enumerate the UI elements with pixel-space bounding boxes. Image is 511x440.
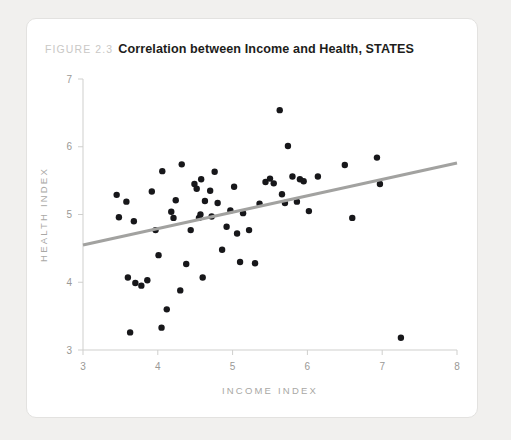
data-point: [214, 200, 220, 206]
x-tick-label: 8: [454, 361, 460, 372]
y-axis-ticks: 34567: [66, 74, 83, 356]
x-tick-label: 3: [80, 361, 86, 372]
data-point: [342, 162, 348, 168]
data-point: [125, 274, 131, 280]
data-point: [207, 188, 213, 194]
x-tick-label: 5: [230, 361, 236, 372]
y-tick-label: 5: [66, 209, 72, 220]
data-point: [223, 223, 229, 229]
data-point: [149, 188, 155, 194]
x-axis-title: INCOME INDEX: [222, 385, 318, 396]
data-point: [170, 215, 176, 221]
data-point: [300, 178, 306, 184]
y-axis-title: HEALTH INDEX: [38, 167, 49, 262]
data-point: [179, 161, 185, 167]
x-tick-label: 6: [305, 361, 311, 372]
data-point: [183, 261, 189, 267]
data-point: [277, 107, 283, 113]
data-point: [168, 209, 174, 215]
data-point: [132, 280, 138, 286]
data-point: [279, 191, 285, 197]
data-point: [252, 260, 258, 266]
data-point: [271, 180, 277, 186]
data-point: [123, 198, 129, 204]
data-point: [289, 173, 295, 179]
data-point: [285, 143, 291, 149]
data-point: [116, 214, 122, 220]
data-point: [113, 192, 119, 198]
data-point: [188, 227, 194, 233]
x-tick-label: 4: [155, 361, 161, 372]
data-point: [306, 208, 312, 214]
y-tick-label: 7: [66, 74, 72, 85]
trend-line: [83, 163, 457, 245]
data-points-group: [113, 107, 404, 341]
data-point: [197, 211, 203, 217]
figure-card: FIGURE 2.3Correlation between Income and…: [26, 18, 478, 418]
data-point: [246, 227, 252, 233]
data-point: [159, 168, 165, 174]
data-point: [164, 306, 170, 312]
data-point: [199, 274, 205, 280]
data-point: [144, 277, 150, 283]
data-point: [231, 184, 237, 190]
data-point: [398, 335, 404, 341]
data-point: [138, 282, 144, 288]
data-point: [211, 169, 217, 175]
scatter-plot: 34567 345678 INCOME INDEX HEALTH INDEX: [27, 19, 479, 419]
data-point: [158, 324, 164, 330]
y-tick-label: 6: [66, 141, 72, 152]
y-tick-label: 4: [66, 277, 72, 288]
data-point: [177, 287, 183, 293]
data-point: [315, 173, 321, 179]
x-tick-label: 7: [379, 361, 385, 372]
data-point: [155, 252, 161, 258]
y-tick-label: 3: [66, 345, 72, 356]
data-point: [173, 197, 179, 203]
data-point: [219, 247, 225, 253]
data-point: [234, 230, 240, 236]
data-point: [374, 154, 380, 160]
data-point: [237, 259, 243, 265]
data-point: [127, 329, 133, 335]
axes-group: [83, 79, 457, 350]
data-point: [198, 176, 204, 182]
data-point: [202, 198, 208, 204]
data-point: [131, 218, 137, 224]
data-point: [349, 215, 355, 221]
x-axis-ticks: 345678: [80, 350, 460, 372]
data-point: [193, 186, 199, 192]
